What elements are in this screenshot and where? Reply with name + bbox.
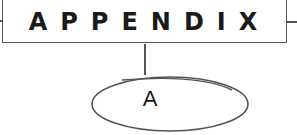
ellipse-outline (92, 77, 248, 131)
appendix-label: A (137, 86, 163, 112)
appendix-ellipse (0, 0, 297, 135)
